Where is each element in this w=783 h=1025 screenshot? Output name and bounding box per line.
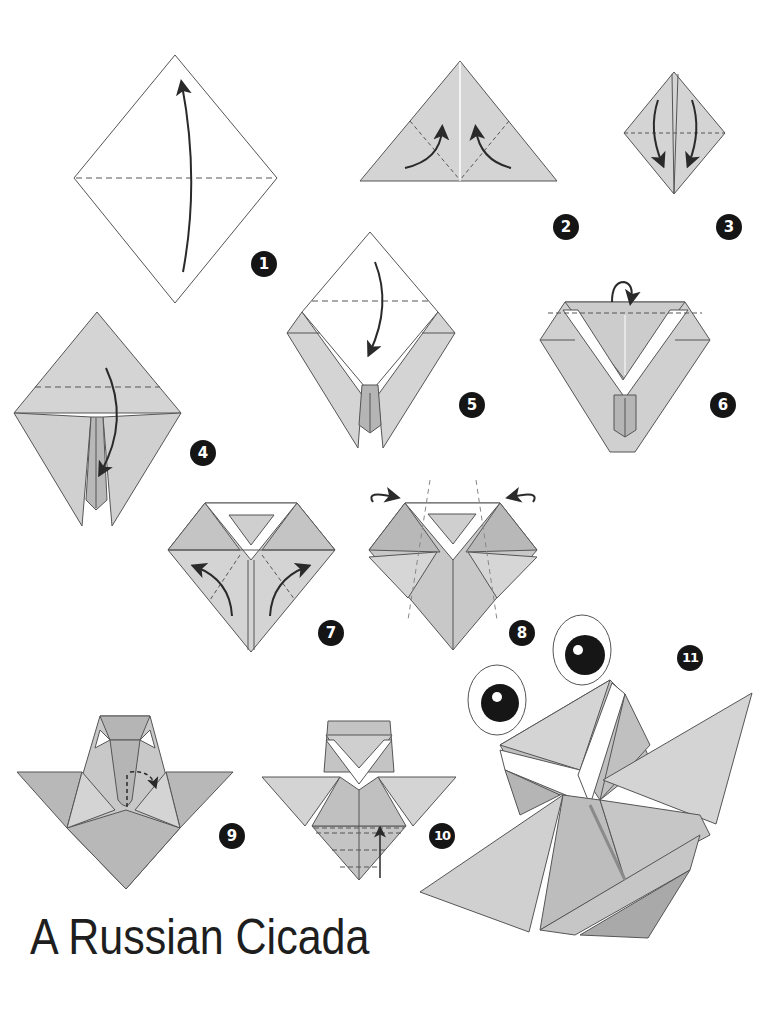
step-badge-6: 6 xyxy=(710,392,736,418)
step-badge-8: 8 xyxy=(509,620,535,646)
step-3-diagram xyxy=(624,72,725,194)
origami-instruction-sheet: 1 2 3 4 5 6 7 8 9 10 11 A Russian Cicada xyxy=(0,0,783,1025)
page-title: A Russian Cicada xyxy=(30,908,369,966)
arrow-icon xyxy=(612,282,632,302)
step-badge-7: 7 xyxy=(318,620,344,646)
step-badge-1: 1 xyxy=(251,251,277,277)
step-6-diagram xyxy=(540,282,710,452)
step-badge-10: 10 xyxy=(429,823,455,849)
step-5-diagram xyxy=(287,232,455,448)
step-badge-3: 3 xyxy=(716,214,742,240)
step-badge-2: 2 xyxy=(553,214,579,240)
step-11-finished-cicada xyxy=(420,615,752,938)
arrow-icon xyxy=(371,494,395,502)
step-1-diagram xyxy=(74,55,277,303)
arrow-icon xyxy=(511,494,535,502)
step-badge-11: 11 xyxy=(677,645,703,671)
step-badge-5: 5 xyxy=(459,392,485,418)
step-10-diagram xyxy=(262,721,456,880)
right-eye xyxy=(553,615,611,685)
step-badge-9: 9 xyxy=(219,823,245,849)
step-badge-4: 4 xyxy=(190,440,216,466)
step-7-diagram xyxy=(168,503,335,652)
diagram-canvas xyxy=(0,0,783,1025)
step-2-diagram xyxy=(360,61,557,181)
left-eye xyxy=(468,665,526,735)
step-4-diagram xyxy=(14,312,181,526)
step-9-diagram xyxy=(17,716,233,889)
